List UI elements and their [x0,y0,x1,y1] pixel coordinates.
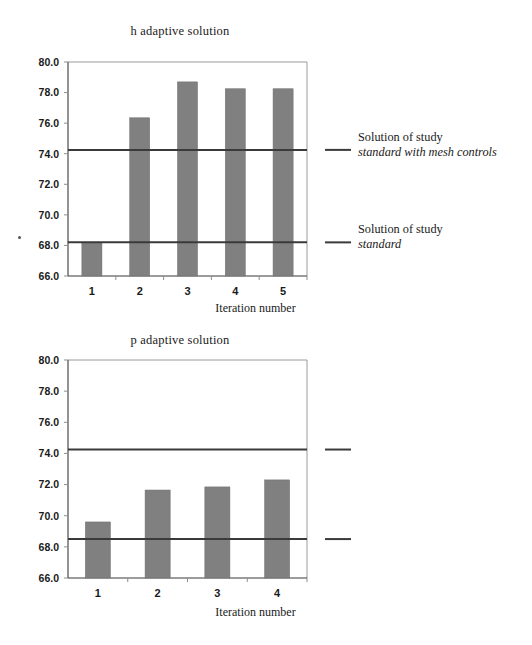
bar-4 [225,89,245,276]
bar-4 [265,480,290,578]
chart-canvas-h: 66.068.070.072.074.076.078.080.012345Ite… [0,0,532,325]
y-tick-label: 80.0 [39,354,60,366]
x-tick-label: 2 [155,587,161,599]
x-tick-label: 3 [184,285,190,297]
x-tick-label: 1 [89,285,95,297]
annotation-standard-h: Solution of study standard [358,222,443,251]
x-axis-title: Iteration number [215,301,295,315]
y-tick-label: 78.0 [39,86,60,98]
stray-speck [18,236,21,239]
x-tick-label: 3 [214,587,220,599]
x-tick-label: 2 [137,285,143,297]
bar-3 [205,487,230,578]
annotation-line1: Solution of study [358,222,443,236]
y-tick-label: 66.0 [39,572,60,584]
y-tick-label: 74.0 [39,447,60,459]
bar-2 [130,118,150,276]
y-tick-label: 78.0 [39,385,60,397]
bar-1 [85,522,110,578]
annotation-line2: standard [358,237,443,252]
y-tick-label: 72.0 [39,478,60,490]
y-tick-label: 80.0 [39,56,60,68]
y-tick-label: 76.0 [39,416,60,428]
y-tick-label: 76.0 [39,117,60,129]
y-tick-label: 68.0 [39,541,60,553]
bar-1 [82,242,102,276]
annotation-mesh-controls-h: Solution of study standard with mesh con… [358,130,497,159]
bar-2 [145,490,170,578]
bar-5 [273,89,293,276]
chart-h-adaptive: h adaptive solution 66.068.070.072.074.0… [0,0,532,325]
annotation-line2: standard with mesh controls [358,145,497,160]
y-tick-label: 68.0 [39,239,60,251]
chart-canvas-p: 66.068.070.072.074.076.078.080.01234Iter… [0,325,532,645]
x-tick-label: 5 [280,285,286,297]
annotation-line1: Solution of study [358,130,443,144]
y-tick-label: 66.0 [39,270,60,282]
x-tick-label: 4 [274,587,281,599]
chart-p-adaptive: p adaptive solution 66.068.070.072.074.0… [0,325,532,645]
x-tick-label: 4 [232,285,239,297]
y-tick-label: 72.0 [39,178,60,190]
y-tick-label: 70.0 [39,510,60,522]
y-tick-label: 70.0 [39,209,60,221]
x-axis-title: Iteration number [215,605,295,619]
y-tick-label: 74.0 [39,148,60,160]
x-tick-label: 1 [95,587,101,599]
bar-3 [177,82,197,276]
